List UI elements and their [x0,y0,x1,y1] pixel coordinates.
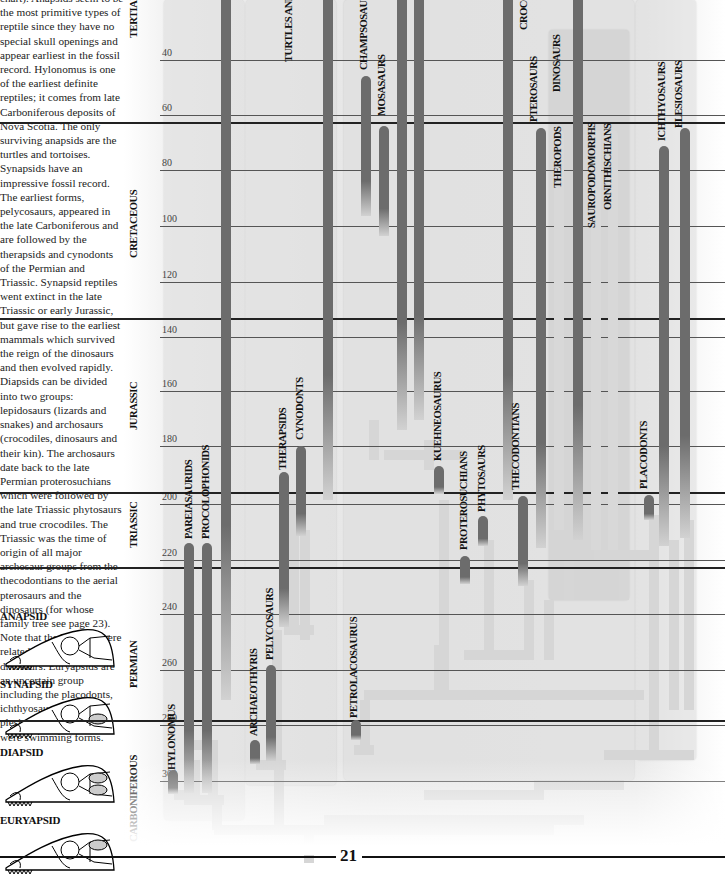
footer-rule-left [0,856,336,858]
taxon-label-ichthyosaurs: ICHTHYOSAURS [656,62,667,141]
lineage-bar-mosasaurs [379,126,389,236]
tree-branch [564,560,574,600]
taxon-label-sauropodomorphs: SAUROPODOMORPHS [586,122,597,228]
gridline-140 [160,337,725,338]
taxon-label-phytosaurs: PHYTOSAURS [476,445,487,512]
lineage-bar-champsosaurs [361,76,371,216]
lineage-bar-lepidosaur-2 [414,0,424,420]
gridline-120 [160,282,725,283]
period-label-jurassic: JURASSIC [128,382,139,430]
skull-anapsid: ANAPSID [0,610,124,678]
footer-rule-right [362,856,725,858]
tree-branch [619,560,629,600]
lineage-bar-birds [573,0,583,540]
tick-label-260: 260 [162,657,177,668]
lineage-bar-therapsids [279,472,289,627]
period-label-tertiary: TERTIARY [128,0,139,38]
tree-branch [364,690,644,700]
skull-diagram-icon [2,828,120,878]
tick-label-80: 80 [162,157,172,168]
lineage-bar-procolophonids [202,543,212,793]
period-label-cretaceous: CRETACEOUS [128,190,139,258]
taxon-label-thecodontians: THECODONTIANS [510,403,521,490]
taxon-label-ornithischians: ORNITHISCHIANS [602,124,613,210]
skull-label: DIAPSID [0,746,124,760]
taxon-label-kuehneosaurus: KUEHNEOSAURUS [432,372,443,461]
gridline-260 [160,670,725,671]
lineage-bar-turtles [221,0,231,700]
page-number: 21 [340,846,357,866]
tree-branch [669,540,679,710]
gridline-40 [160,60,725,61]
tree-branch [604,750,694,760]
gridline-80 [160,170,725,171]
lineage-bar-pareiasaurids [184,543,194,793]
tree-branch [544,600,554,660]
taxon-label-mosasaurs: MOSASAURS [376,55,387,116]
period-label-permian: PERMIAN [128,641,139,688]
tree-branch [649,515,659,755]
tick-label-100: 100 [162,213,177,224]
taxon-label-pareiasaurids: PAREIASAURIDS [183,460,194,539]
taxon-label-proterosuchians: PROTEROSUCHIANS [458,451,469,550]
taxon-label-cynodonts: CYNODONTS [294,377,305,440]
lineage-bar-cynodonts [296,446,306,536]
skull-label: EURYAPSID [0,814,124,828]
lineage-bar-phytosaurs [478,516,488,546]
reptile-family-tree: 406080100120140160180200220240260280300T… [124,0,725,860]
lineage-bar-petrolacosaurus [351,720,361,740]
tick-label-140: 140 [162,324,177,335]
lineage-bar-kuehneosaurus [434,466,444,494]
taxon-label-pelycosaurs: PELYCOSAURS [264,588,275,660]
lineage-bar-placodonts [644,495,654,520]
taxon-label-archaeothyris: ARCHAEOTHYRIS [248,649,259,736]
tick-label-240: 240 [162,601,177,612]
chart-bottom-fade [124,760,725,855]
tick-label-60: 60 [162,102,172,113]
skull-synapsid: SYNAPSID [0,678,124,746]
lineage-bar-ichthyosaurs [659,146,669,546]
period-label-triassic: TRIASSIC [128,502,139,548]
tick-label-160: 160 [162,378,177,389]
taxon-label-petrolacosaurus: PETROLACOSAURUS [348,617,359,718]
taxon-label-pterosaurs: PTEROSAURS [528,56,539,122]
tree-branch [434,645,444,700]
gridline-280 [160,725,725,726]
tick-label-220: 220 [162,547,177,558]
tick-label-40: 40 [162,47,172,58]
tree-branch [524,580,534,660]
gridline-60 [160,115,725,116]
gridline-200 [160,504,725,505]
tree-branch [594,550,654,560]
period-boundary [0,720,725,722]
skull-types-legend: ANAPSIDSYNAPSIDDIAPSIDEURYAPSID [0,610,124,882]
skull-diagram-icon [2,692,120,742]
lineage-bar-plesiosaurs [680,128,690,538]
skull-label: SYNAPSID [0,678,124,692]
gridline-240 [160,614,725,615]
taxon-label-turtles-and: TURTLES AND [283,0,294,62]
lineage-bar-pterosaurs [536,128,546,548]
tree-branch [484,540,494,660]
lineage-bar-synapsid-stem [323,0,333,500]
taxon-label-procolophonids: PROCOLOPHONIDS [200,445,211,539]
taxon-label-therapsids: THERAPSIDS [277,408,288,470]
tick-label-180: 180 [162,433,177,444]
tick-label-120: 120 [162,269,177,280]
lineage-bar-thecodontians [518,496,528,586]
lineage-bar-theropods [554,130,564,530]
period-boundary [0,567,725,569]
skull-label: ANAPSID [0,610,124,624]
taxon-label-placodonts: PLACODONTS [638,421,649,489]
tree-branch [369,420,379,460]
taxon-label-champsosaurs: CHAMPSOSAURS [358,0,369,70]
tree-branch [684,520,694,710]
skull-euryapsid: EURYAPSID [0,814,124,882]
skull-diapsid: DIAPSID [0,746,124,814]
taxon-label-theropods: THEROPODS [552,127,563,188]
lineage-bar-pelycosaurs [266,665,276,761]
gridline-220 [160,560,725,561]
gridline-100 [160,226,725,227]
lineage-bar-lepidosaur-1 [397,0,407,430]
lineage-bar-proterosuchians [460,556,470,584]
